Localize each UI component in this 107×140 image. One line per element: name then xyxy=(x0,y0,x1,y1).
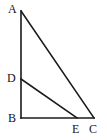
vertex-label-e: E xyxy=(72,123,79,135)
geometry-figure: A D B E C xyxy=(0,0,107,140)
figure-background xyxy=(0,0,107,140)
vertex-label-d: D xyxy=(7,72,16,84)
vertex-label-c: C xyxy=(89,123,97,135)
vertex-label-b: B xyxy=(8,112,16,124)
figure-canvas xyxy=(0,0,107,140)
vertex-label-a: A xyxy=(8,3,17,15)
